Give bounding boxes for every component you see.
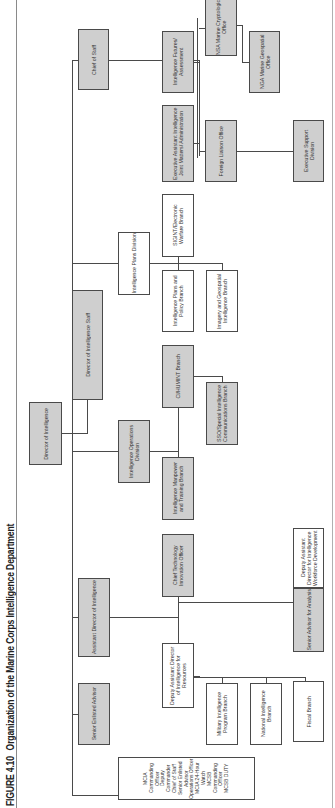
connector-cos-branch — [197, 18, 198, 158]
figure-title: FIGURE 4.10Organization of the Marine Co… — [3, 314, 17, 806]
figure-number: FIGURE 4.10 — [4, 756, 16, 806]
box-nsa-marine-cryptologic: NSA Marine Cryptologic Office — [205, 0, 237, 56]
connector-cos-sub-bus — [199, 60, 200, 156]
box-nga-marine-geospatial: NGA Marine Geospatial Office — [249, 31, 280, 93]
box-senior-advisor-analysis: Senior Advisor for Analysis — [293, 588, 324, 652]
box-intelligence-plans-division: Intelligence Plans Division — [118, 232, 150, 295]
connector-mcia — [72, 795, 118, 796]
connector-ops-out — [150, 451, 178, 452]
connector-main-bus — [72, 60, 73, 796]
connector-exec-asst — [194, 143, 199, 144]
connector-plans-sub-bus — [178, 263, 222, 264]
box-imagery-geospatial: Imagery and Geospatial Intelligence Bran… — [206, 270, 238, 332]
box-mcia-leadership: MCIA Commanding Officer Deputy Commander… — [118, 757, 255, 800]
box-dad-workforce-development: Deputy Assistant Director for Intelligen… — [293, 528, 324, 588]
box-foreign-liaison: Foreign Liaison Office — [205, 120, 237, 182]
box-dad-resources: Deputy Assistant Director of Intelligenc… — [162, 643, 194, 708]
box-national-intel-branch: National Intelligence Branch — [250, 683, 282, 745]
box-military-intel-program: Military Intelligence Program Branch — [206, 683, 238, 745]
box-assistant-director: Assistant Director of Intelligence — [78, 578, 110, 657]
connector-nga-stem — [242, 25, 243, 62]
box-director-of-intelligence: Director of Intelligence — [29, 402, 62, 465]
box-chief-of-staff: Chief of Staff — [78, 29, 109, 90]
connector-futures — [194, 62, 199, 63]
connector-plans-division — [72, 263, 118, 264]
box-intelligence-operations-division: Intelligence Operations Division — [118, 420, 150, 483]
connector-ops-bus — [178, 408, 179, 457]
connector-imagery-stem — [222, 263, 223, 270]
connector-nga — [242, 62, 249, 63]
page-frame-right — [332, 0, 333, 808]
box-intel-plans-policy: Intelligence Plans and Policy Branch — [162, 270, 194, 332]
box-intel-manpower-training: Intelligence Manpower and Training Branc… — [162, 457, 194, 520]
box-fiscal-branch: Fiscal Branch — [293, 681, 324, 742]
box-intelligence-futures: Intelligence Futures/ Assessment — [162, 31, 194, 93]
connector-ops-division — [72, 451, 118, 452]
connector-ad-bus — [178, 597, 179, 643]
box-director-of-intelligence-staff: Director of Intelligence Staff — [72, 290, 103, 400]
connector-ciHumint-sso — [194, 376, 222, 377]
box-ci-humint: CI/HUMINT Branch — [162, 345, 194, 408]
connector-ad-lower — [178, 602, 310, 603]
box-sigint-ew: SIGINT/Electronic Warfare Branch — [162, 194, 194, 257]
connector-res-spine-h — [194, 677, 306, 678]
connector-director-staff — [62, 433, 88, 434]
box-chief-technology-innovation: Chief Technology Innovation Officer — [162, 534, 194, 597]
box-senior-enlisted-advisor: Senior Enlisted Advisor — [78, 683, 110, 745]
box-sso-special-intel-comms: SSO/Special Intelligence Communications … — [206, 382, 238, 445]
box-executive-assistant-joint-matters: Executive Assistant Intelligence Joint M… — [162, 105, 194, 182]
connector-staff-stem — [87, 400, 88, 433]
connector-ad-out — [110, 617, 178, 618]
connector-plans-out — [150, 263, 178, 264]
figure-caption: Organization of the Marine Corps Intelli… — [4, 524, 16, 751]
box-executive-support: Executive Support Division — [293, 120, 324, 182]
